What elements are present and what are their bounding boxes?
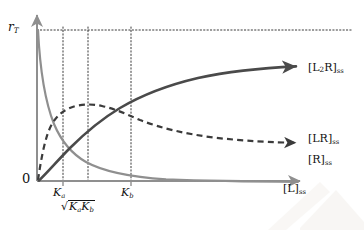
tick-label-ka: Ka bbox=[53, 187, 65, 199]
r-sub: ss bbox=[325, 159, 332, 167]
tick-ka-main: K bbox=[53, 186, 61, 199]
tick-kb-main: K bbox=[121, 186, 129, 199]
lss-species: L bbox=[287, 182, 294, 195]
tick-label-sqrt-kakb: √KaKb bbox=[60, 200, 95, 213]
y-axis-label-subscript: T bbox=[14, 26, 19, 35]
tick-geo-sub2: b bbox=[90, 206, 94, 214]
curve-L2R-ss bbox=[39, 66, 296, 180]
tick-geo-main2: K bbox=[81, 200, 89, 213]
r-species: R bbox=[312, 153, 320, 166]
radical-sign: √KaKb bbox=[60, 200, 95, 213]
series-label-r-ss: [R]ss bbox=[308, 154, 332, 166]
tick-ka-sub: a bbox=[61, 192, 65, 200]
curve-R-ss bbox=[38, 30, 298, 182]
tick-label-origin: 0 bbox=[22, 172, 30, 185]
l2r-species-tail: R bbox=[324, 61, 332, 74]
series-label-lr-ss: [LR]ss bbox=[308, 133, 339, 145]
lr-sub: ss bbox=[332, 138, 339, 146]
series-label-l2r-ss: [L2R]ss bbox=[308, 62, 344, 74]
y-axis-label: rT bbox=[8, 21, 19, 34]
x-axis-label: [L]ss bbox=[283, 183, 306, 195]
l2r-sub: ss bbox=[337, 67, 344, 75]
tick-label-kb: Kb bbox=[121, 187, 134, 199]
lss-sub: ss bbox=[299, 188, 306, 196]
tick-geo-main1: K bbox=[69, 200, 77, 213]
tick-kb-sub: b bbox=[129, 192, 133, 200]
l2r-species: L bbox=[312, 61, 319, 74]
lr-species: LR bbox=[312, 132, 328, 145]
